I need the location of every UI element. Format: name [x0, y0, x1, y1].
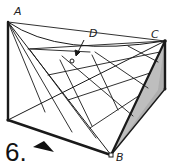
arrow-to-d-icon: [75, 40, 84, 56]
point-b-marker: [109, 153, 113, 157]
point-d-marker: [70, 59, 74, 63]
direction-arrow-icon: [33, 141, 54, 152]
label-d: D: [89, 28, 97, 39]
figure-number: 6.: [5, 139, 27, 165]
label-b: B: [116, 152, 124, 163]
hypar-diagram: A D C B 6.: [0, 0, 174, 167]
label-c: C: [151, 29, 159, 40]
label-a: A: [14, 6, 22, 17]
